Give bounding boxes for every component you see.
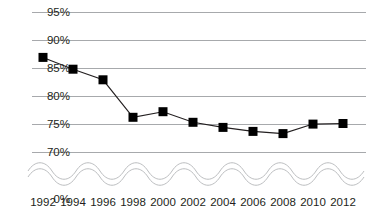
line-chart: 95% 90% 85% 80% 75% 70% 0% 1992 1994 199… (0, 0, 371, 215)
y-tick-label-70: 70% (47, 147, 70, 158)
data-point-2006 (249, 127, 258, 136)
y-tick-label-90: 90% (47, 35, 70, 46)
axis-break-wavy-lines (28, 163, 364, 186)
data-point-2008 (279, 129, 288, 138)
chart-plot-area (0, 0, 371, 215)
gridlines (32, 13, 366, 153)
x-tick-label-2004: 2004 (206, 196, 240, 208)
data-point-1998 (129, 113, 138, 122)
y-tick-label-95: 95% (47, 7, 70, 18)
data-point-1992 (39, 53, 48, 62)
x-tick-label-1992: 1992 (26, 196, 60, 208)
x-tick-label-2006: 2006 (236, 196, 270, 208)
x-tick-label-2010: 2010 (296, 196, 330, 208)
x-tick-label-1996: 1996 (86, 196, 120, 208)
series-markers (39, 53, 348, 138)
data-point-1996 (99, 75, 108, 84)
y-tick-label-80: 80% (47, 91, 70, 102)
data-point-2004 (219, 123, 228, 132)
x-tick-label-1998: 1998 (116, 196, 150, 208)
x-tick-label-2002: 2002 (176, 196, 210, 208)
x-tick-label-1994: 1994 (56, 196, 90, 208)
data-point-2000 (159, 107, 168, 116)
data-point-2012 (339, 119, 348, 128)
x-tick-label-2000: 2000 (146, 196, 180, 208)
y-tick-label-75: 75% (47, 119, 70, 130)
x-tick-label-2012: 2012 (326, 196, 360, 208)
data-point-2010 (309, 120, 318, 129)
y-tick-label-85: 85% (47, 63, 70, 74)
data-point-2002 (189, 118, 198, 127)
x-tick-label-2008: 2008 (266, 196, 300, 208)
